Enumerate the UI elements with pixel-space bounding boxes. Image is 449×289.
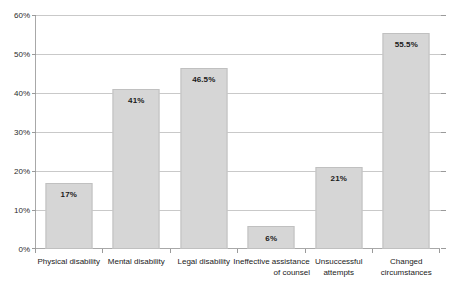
- bar-mental-disability[interactable]: 41%: [113, 89, 160, 249]
- y-axis-label-40: 40%: [2, 89, 30, 98]
- bar-value-changed-circumstances: 55.5%: [384, 40, 429, 49]
- x-axis-category-labels: Physical disability Mental disability Le…: [35, 256, 440, 286]
- x-tick-2: [170, 249, 171, 253]
- x-axis-label-ineffective-assistance-of-counsel: Ineffective assistance of counsel: [233, 256, 310, 278]
- bar-chart: 60% 50% 40% 30% 20% 10% 0% 17%: [0, 0, 449, 289]
- bar-value-legal-disability: 46.5%: [181, 75, 226, 84]
- bar-value-mental-disability: 41%: [114, 96, 159, 105]
- x-axis-label-changed-circumstances-line2: circumstances: [373, 267, 441, 278]
- y-axis-label-60: 60%: [2, 11, 30, 20]
- bar-changed-circumstances[interactable]: 55.5%: [383, 33, 430, 250]
- y-axis-label-0: 0%: [2, 245, 30, 254]
- x-axis-label-changed-circumstances-line1: Changed: [373, 256, 441, 267]
- x-axis-label-legal-disability: Legal disability: [170, 256, 238, 267]
- x-tick-0: [35, 249, 36, 253]
- x-axis-label-mental-disability: Mental disability: [103, 256, 171, 267]
- x-axis-label-ineffective-assistance-of-counsel-line2: of counsel: [233, 267, 310, 278]
- y-tick-right-40: [441, 93, 446, 94]
- x-axis-label-mental-disability-line1: Mental disability: [103, 256, 171, 267]
- y-axis-label-30: 30%: [2, 128, 30, 137]
- y-tick-right-30: [441, 132, 446, 133]
- x-tick-1: [102, 249, 103, 253]
- x-axis-label-unsuccessful-attempts-line2: attempts: [305, 267, 373, 278]
- x-axis-label-unsuccessful-attempts-line1: Unsuccessful: [305, 256, 373, 267]
- bar-physical-disability[interactable]: 17%: [45, 183, 92, 249]
- x-tick-5: [372, 249, 373, 253]
- x-axis-label-legal-disability-line1: Legal disability: [170, 256, 238, 267]
- y-tick-right-50: [441, 54, 446, 55]
- x-tick-4: [305, 249, 306, 253]
- y-axis-label-50: 50%: [2, 50, 30, 59]
- x-tick-6: [439, 249, 440, 253]
- bars-layer: 17% 41% 46.5% 6% 21% 55.5%: [35, 15, 440, 249]
- x-axis-label-ineffective-assistance-of-counsel-line1: Ineffective assistance: [233, 256, 310, 267]
- y-tick-right-20: [441, 171, 446, 172]
- x-axis-label-unsuccessful-attempts: Unsuccessful attempts: [305, 256, 373, 278]
- x-tick-3: [237, 249, 238, 253]
- bar-value-physical-disability: 17%: [46, 190, 91, 199]
- bar-unsuccessful-attempts[interactable]: 21%: [315, 167, 362, 249]
- x-axis-label-physical-disability-line1: Physical disability: [35, 256, 103, 267]
- bar-value-unsuccessful-attempts: 21%: [316, 174, 361, 183]
- y-tick-right-10: [441, 210, 446, 211]
- y-tick-right-0: [441, 248, 446, 249]
- bar-slot-legal-disability: 46.5%: [170, 15, 238, 249]
- bar-slot-unsuccessful-attempts: 21%: [305, 15, 373, 249]
- x-axis-label-changed-circumstances: Changed circumstances: [373, 256, 441, 278]
- bar-legal-disability[interactable]: 46.5%: [180, 68, 227, 249]
- bar-slot-physical-disability: 17%: [35, 15, 103, 249]
- y-axis-label-20: 20%: [2, 167, 30, 176]
- bar-slot-ineffective-assistance-of-counsel: 6%: [238, 15, 306, 249]
- y-tick-right-60: [441, 15, 446, 16]
- bar-slot-changed-circumstances: 55.5%: [373, 15, 441, 249]
- bar-ineffective-assistance-of-counsel[interactable]: 6%: [248, 226, 295, 249]
- bar-slot-mental-disability: 41%: [103, 15, 171, 249]
- bar-value-ineffective-assistance-of-counsel: 6%: [249, 234, 294, 243]
- x-axis-label-physical-disability: Physical disability: [35, 256, 103, 267]
- y-axis-label-10: 10%: [2, 206, 30, 215]
